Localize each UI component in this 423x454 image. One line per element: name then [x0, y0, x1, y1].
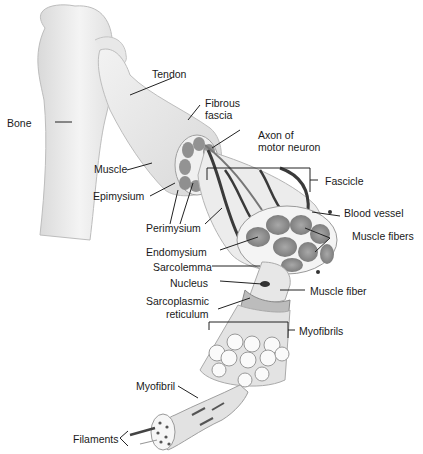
label-myofibril: Myofibril — [136, 380, 175, 392]
label-myofibrils: Myofibrils — [299, 325, 343, 337]
diagram-illustration — [0, 0, 423, 454]
label-perimysium: Perimysium — [146, 222, 201, 234]
label-muscle-fibers: Muscle fibers — [352, 230, 414, 242]
muscle-structure-diagram: Tendon Fibrous fascia Bone Axon of motor… — [0, 0, 423, 454]
fascicle-cross-section — [237, 206, 337, 274]
label-sarcoplasmic-reticulum-line1: Sarcoplasmic — [146, 295, 209, 307]
label-blood-vessel: Blood vessel — [344, 207, 404, 219]
label-epimysium: Epimysium — [93, 190, 144, 202]
label-muscle: Muscle — [94, 163, 127, 175]
label-axon-line2: motor neuron — [258, 141, 320, 153]
label-filaments: Filaments — [73, 433, 119, 445]
label-nucleus: Nucleus — [170, 277, 208, 289]
label-tendon: Tendon — [152, 68, 186, 80]
label-endomysium: Endomysium — [146, 246, 207, 258]
bone-shape — [38, 5, 127, 240]
label-axon-line1: Axon of — [258, 129, 294, 141]
single-myofibril — [130, 385, 248, 450]
label-sarcolemma: Sarcolemma — [153, 261, 212, 273]
label-sarcoplasmic-reticulum-line2: reticulum — [166, 308, 209, 320]
label-fibrous-fascia-line2: fascia — [205, 109, 232, 121]
label-bone: Bone — [7, 117, 32, 129]
label-fascicle: Fascicle — [325, 175, 364, 187]
label-muscle-fiber: Muscle fiber — [310, 285, 367, 297]
myofibrils-bundle — [200, 305, 290, 387]
label-fibrous-fascia-line1: Fibrous — [205, 97, 240, 109]
